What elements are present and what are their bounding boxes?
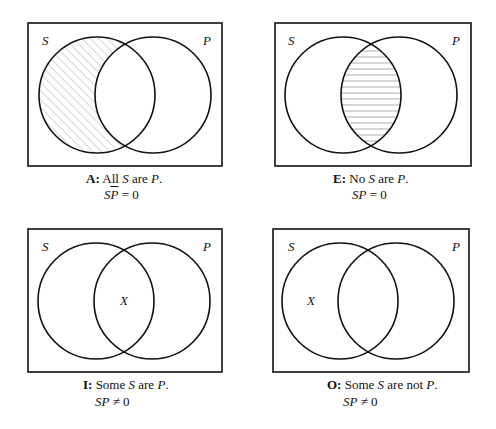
label-p: P — [452, 239, 460, 255]
label-p: P — [203, 33, 211, 49]
circle-s — [282, 243, 398, 359]
label-p: P — [203, 239, 211, 255]
circle-s — [38, 243, 154, 359]
panel-e-diagram — [275, 23, 471, 166]
label-s: S — [288, 239, 295, 255]
formula-a: SP = 0 — [104, 187, 139, 203]
panel-o-diagram — [273, 229, 469, 372]
caption-a: A: All S are P. — [86, 171, 162, 187]
formula-o: SP ≠ 0 — [343, 394, 378, 410]
existence-mark: X — [120, 293, 128, 309]
panel-a-diagram — [28, 23, 222, 166]
caption-i: I: Some S are P. — [83, 377, 169, 393]
venn-diagrams — [0, 0, 496, 429]
label-s: S — [42, 33, 49, 49]
label-s: S — [288, 33, 295, 49]
label-s: S — [42, 239, 49, 255]
formula-e: SP = 0 — [352, 187, 387, 203]
existence-mark: X — [307, 293, 315, 309]
circle-p — [338, 243, 454, 359]
formula-i: SP ≠ 0 — [95, 394, 130, 410]
label-p: P — [452, 33, 460, 49]
caption-e: E: No S are P. — [333, 171, 408, 187]
caption-o: O: Some S are not P. — [327, 377, 438, 393]
circle-p — [94, 243, 210, 359]
